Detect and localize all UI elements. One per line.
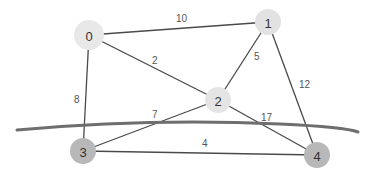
edge-weight-label: 4: [202, 138, 208, 149]
edge-weight-label: 10: [176, 13, 188, 24]
edge-3-4: [83, 151, 317, 155]
node-0: 0: [74, 20, 104, 50]
edge-0-3: [83, 35, 89, 151]
node-3: 3: [70, 138, 96, 164]
graph-diagram: 10285127174 01234: [0, 0, 368, 174]
edge-weight-label: 2: [152, 55, 158, 66]
edge-weight-label: 5: [254, 51, 260, 62]
node-label: 3: [79, 145, 86, 160]
edge-weight-label: 17: [261, 112, 273, 123]
node-label: 0: [85, 29, 92, 44]
node-4: 4: [304, 142, 330, 168]
edge-2-4: [218, 100, 317, 155]
edge-0-2: [89, 35, 218, 100]
edge-weight-label: 12: [299, 79, 311, 90]
edges: [83, 22, 317, 155]
edge-1-2: [218, 22, 268, 100]
nodes: 01234: [70, 9, 330, 168]
node-label: 2: [214, 94, 221, 109]
node-label: 1: [264, 16, 271, 31]
node-1: 1: [255, 9, 281, 35]
node-2: 2: [205, 87, 231, 113]
node-label: 4: [313, 149, 320, 164]
edge-weight-label: 8: [74, 94, 80, 105]
edge-weight-label: 7: [152, 109, 158, 120]
